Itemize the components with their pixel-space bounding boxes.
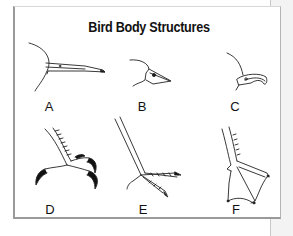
beak-b-illustration	[130, 60, 171, 86]
foot-d-illustration	[36, 128, 98, 189]
beak-c-illustration	[227, 53, 267, 90]
label-b: B	[132, 99, 152, 114]
label-f: F	[226, 202, 246, 217]
diagram-frame: Bird Body Structures	[13, 6, 281, 219]
foot-e-illustration	[115, 117, 181, 197]
foot-f-illustration	[222, 127, 269, 204]
label-c: C	[225, 99, 245, 114]
label-d: D	[40, 202, 60, 217]
label-e: E	[133, 202, 153, 217]
label-a: A	[39, 99, 59, 114]
beak-a-illustration	[29, 43, 105, 91]
